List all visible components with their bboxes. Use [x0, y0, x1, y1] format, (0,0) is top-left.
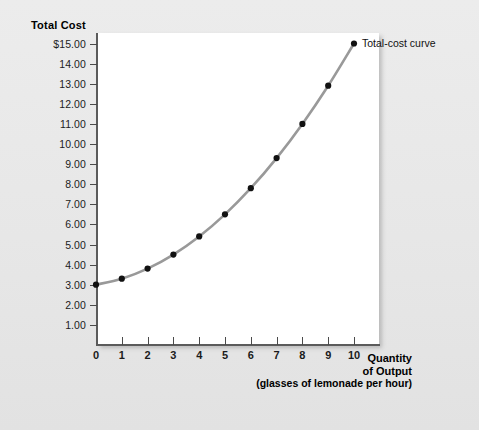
y-axis-label: 9.00: [20, 158, 86, 170]
y-axis-label-text: 6.00: [20, 218, 86, 230]
total-cost-curve-figure: Total Cost $15.0014.0013.0012.0011.0010.…: [0, 0, 479, 430]
y-axis-label-text: 14.00: [20, 58, 86, 70]
y-axis-label-text: 8.00: [20, 178, 86, 190]
y-axis-label: 5.00: [20, 239, 86, 251]
data-point: [248, 185, 254, 191]
x-axis-label: 1: [112, 349, 132, 361]
data-point: [299, 121, 305, 127]
total-cost-series: [96, 33, 380, 346]
x-axis-subtitle: (glasses of lemonade per hour): [175, 377, 412, 389]
y-axis-label-text: 10.00: [20, 138, 86, 150]
y-axis-label-text: 2.00: [20, 299, 86, 311]
y-axis-label: 4.00: [20, 259, 86, 271]
x-axis-title-line1: Quantity: [367, 352, 412, 364]
total-cost-curve-line: [96, 44, 354, 285]
data-point: [351, 40, 357, 46]
y-axis-label-text: 9.00: [20, 158, 86, 170]
data-point: [196, 233, 202, 239]
y-axis-label: 7.00: [20, 198, 86, 210]
y-axis-label-text: 4.00: [20, 259, 86, 271]
series-label: Total-cost curve: [362, 37, 436, 49]
x-axis-label: 5: [215, 349, 235, 361]
x-axis-label: 7: [267, 349, 287, 361]
y-axis-label-text: 1.00: [20, 319, 86, 331]
x-axis-label: 3: [163, 349, 183, 361]
y-axis-label-text: 3.00: [20, 279, 86, 291]
data-point: [274, 155, 280, 161]
y-axis-label-text: $15.00: [20, 38, 86, 50]
y-axis-label-text: 12.00: [20, 98, 86, 110]
y-axis-label-text: 13.00: [20, 78, 86, 90]
data-point: [93, 282, 99, 288]
y-axis-label: 10.00: [20, 138, 86, 150]
y-axis-label: 14.00: [20, 58, 86, 70]
y-axis-label: 6.00: [20, 218, 86, 230]
data-point: [222, 211, 228, 217]
x-axis-label: 4: [189, 349, 209, 361]
y-axis-label: 2.00: [20, 299, 86, 311]
y-axis-label: 13.00: [20, 78, 86, 90]
data-point: [119, 276, 125, 282]
x-axis-title: Quantity of Output: [300, 352, 412, 377]
y-axis-label: 11.00: [20, 118, 86, 130]
x-axis-title-line2: of Output: [363, 365, 412, 377]
y-axis-label-text: 11.00: [20, 118, 86, 130]
y-axis-label-text: 5.00: [20, 239, 86, 251]
x-axis-label: 0: [86, 349, 106, 361]
y-axis-label: 8.00: [20, 178, 86, 190]
y-axis-label: 3.00: [20, 279, 86, 291]
data-point: [325, 83, 331, 89]
data-point: [145, 266, 151, 272]
y-axis-label: $15.00: [20, 38, 86, 50]
x-axis-label: 6: [241, 349, 261, 361]
y-axis-label: 12.00: [20, 98, 86, 110]
y-axis-label-text: 7.00: [20, 198, 86, 210]
y-axis-title: Total Cost: [31, 19, 86, 31]
data-point: [170, 251, 176, 257]
y-axis-label: 1.00: [20, 319, 86, 331]
x-axis-label: 2: [138, 349, 158, 361]
